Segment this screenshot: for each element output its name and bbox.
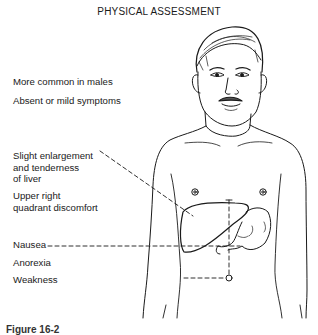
face-icon (192, 68, 266, 126)
liver-icon (180, 203, 248, 253)
torso-outline-icon (143, 112, 307, 318)
umbilicus-icon (226, 275, 232, 281)
leader-lines (48, 151, 240, 278)
hair-icon (196, 27, 262, 72)
figure-caption: Figure 16-2 (6, 324, 59, 335)
leader-line-liver (100, 151, 193, 216)
